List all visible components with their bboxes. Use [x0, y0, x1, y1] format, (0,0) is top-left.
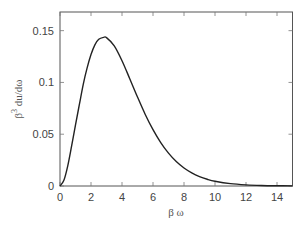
- y-axis-ticks: 00.050.10.15: [33, 25, 293, 192]
- plot-frame: [60, 12, 293, 186]
- chart: 02468101214 00.050.10.15 β ω β3 du/dω: [0, 0, 303, 227]
- x-tick-label: 14: [271, 191, 283, 203]
- y-tick-label: 0.1: [39, 76, 54, 88]
- x-axis-ticks: 02468101214: [57, 12, 283, 203]
- y-tick-label: 0.05: [33, 128, 54, 140]
- x-tick-label: 8: [181, 191, 187, 203]
- y-tick-label: 0: [48, 180, 54, 192]
- x-tick-label: 10: [209, 191, 221, 203]
- x-tick-label: 12: [240, 191, 252, 203]
- x-tick-label: 2: [88, 191, 94, 203]
- x-tick-label: 4: [119, 191, 125, 203]
- y-axis-label: β3 du/dω: [10, 79, 24, 118]
- planck-curve: [60, 37, 293, 186]
- x-axis-label: β ω: [168, 206, 184, 218]
- y-tick-label: 0.15: [33, 25, 54, 37]
- x-tick-label: 0: [57, 191, 63, 203]
- x-tick-label: 6: [150, 191, 156, 203]
